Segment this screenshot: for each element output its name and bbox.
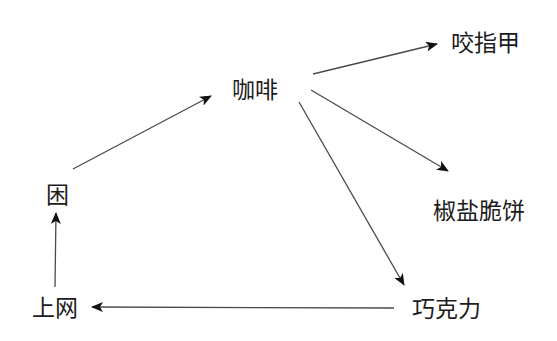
node-chocolate: 巧克力	[412, 296, 481, 322]
diagram-canvas: 咖啡 咬指甲 椒盐脆饼 困 上网 巧克力	[0, 0, 557, 341]
edge-coffee-to-chocolate	[299, 102, 404, 285]
edge-chocolate-to-online	[92, 307, 394, 308]
edge-coffee-to-nail	[313, 44, 437, 74]
node-online: 上网	[32, 295, 78, 321]
node-pretzel: 椒盐脆饼	[433, 198, 525, 224]
node-sleepy: 困	[46, 182, 69, 208]
node-coffee: 咖啡	[232, 77, 278, 103]
edge-sleepy-to-coffee	[73, 96, 211, 169]
edge-online-to-sleepy	[55, 213, 56, 287]
node-nail-biting: 咬指甲	[451, 30, 520, 56]
